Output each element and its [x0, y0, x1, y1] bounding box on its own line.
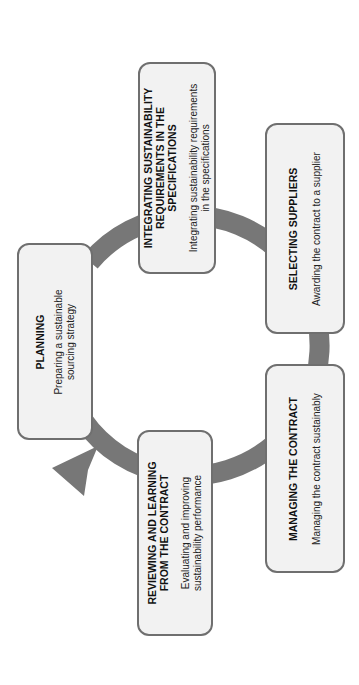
step-selecting-suppliers: SELECTING SUPPLIERS Awarding the contrac… — [265, 123, 345, 334]
arrowhead-icon — [52, 446, 98, 496]
step-title: REVIEWING AND LEARNING FROM THE CONTRACT — [146, 458, 170, 608]
step-planning: PLANNING Preparing a sustainable sourcin… — [17, 243, 93, 440]
step-description: Preparing a sustainable sourcing strateg… — [53, 282, 77, 402]
step-title: SELECTING SUPPLIERS — [287, 167, 299, 290]
step-description: Integrating sustainability requirements … — [188, 83, 212, 253]
step-description: Evaluating and improving sustainability … — [180, 458, 204, 608]
step-integrating-requirements: INTEGRATING SUSTAINABILITY REQUIREMENTS … — [138, 62, 216, 274]
step-title: PLANNING — [34, 314, 46, 369]
step-managing-contract: MANAGING THE CONTRACT Managing the contr… — [265, 364, 345, 573]
step-title: MANAGING THE CONTRACT — [287, 396, 299, 540]
step-reviewing-learning: REVIEWING AND LEARNING FROM THE CONTRACT… — [137, 430, 213, 636]
step-description: Awarding the contract to a supplier — [311, 152, 323, 306]
step-title: INTEGRATING SUSTAINABILITY REQUIREMENTS … — [142, 78, 178, 258]
step-description: Managing the contract sustainably — [311, 393, 323, 545]
